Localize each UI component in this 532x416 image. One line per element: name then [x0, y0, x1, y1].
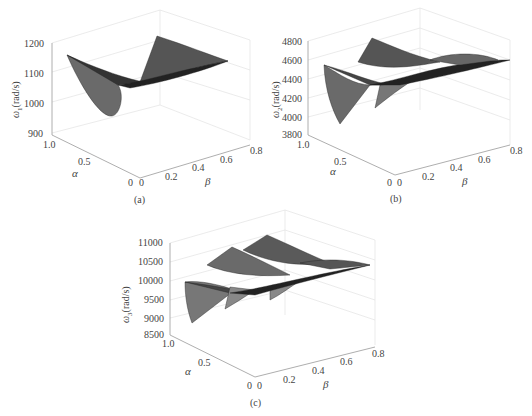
alpha-tick: 1.0 [162, 339, 175, 349]
beta-tick: 0.8 [372, 349, 385, 359]
beta-tick: 0.4 [450, 163, 463, 173]
ztick: 8500 [144, 330, 164, 340]
ztick: 4600 [282, 56, 302, 66]
z-subscript: 1 [16, 107, 24, 111]
beta-tick: 0.2 [422, 172, 435, 182]
z-unit: (rad/s) [10, 81, 21, 107]
beta-tick: 0.8 [510, 146, 523, 156]
ztick: 900 [28, 129, 43, 139]
caption-b: (b) [390, 193, 402, 204]
alpha-label: α [330, 165, 336, 177]
beta-label: β [462, 175, 467, 187]
ztick: 11000 [138, 238, 163, 248]
beta-tick: 0.6 [340, 357, 353, 367]
beta-tick: 0 [257, 381, 262, 391]
z-axis-label: ω1(rad/s) [10, 81, 24, 118]
ztick: 4800 [282, 37, 302, 47]
ztick: 10500 [138, 257, 163, 267]
beta-tick: 0.6 [478, 155, 491, 165]
surface-b [324, 38, 510, 124]
alpha-tick: 0 [387, 178, 392, 188]
caption-c: (c) [250, 397, 261, 408]
plot-b: 4800 4600 4400 4200 4000 3800 ω2(rad/s) … [270, 0, 532, 210]
ztick: 4000 [282, 113, 302, 123]
z-unit: (rad/s) [270, 81, 281, 107]
ztick: 4400 [282, 75, 302, 85]
plot-a: 1200 1100 1000 900 ω1(rad/s) 1.0 0.5 0 α… [0, 0, 270, 210]
beta-tick: 0 [139, 178, 144, 188]
beta-tick: 0.2 [283, 375, 296, 385]
ztick: 9000 [144, 314, 164, 324]
surface-c [185, 235, 370, 323]
alpha-tick: 0 [128, 178, 133, 188]
ztick: 1100 [24, 69, 44, 79]
plot-c-axes [130, 205, 410, 416]
beta-label: β [323, 378, 328, 390]
z-symbol: ω [270, 111, 281, 118]
z-symbol: ω [120, 316, 131, 323]
ztick: 10000 [138, 276, 163, 286]
ztick: 9500 [144, 295, 164, 305]
z-symbol: ω [10, 111, 21, 118]
alpha-tick: 1.0 [297, 140, 310, 150]
alpha-tick: 0.5 [198, 358, 211, 368]
alpha-label: α [185, 365, 191, 377]
beta-tick: 0.8 [250, 146, 263, 156]
z-subscript: 3 [126, 312, 134, 316]
z-unit: (rad/s) [120, 286, 131, 312]
z-subscript: 2 [276, 107, 284, 111]
ztick: 4200 [282, 94, 302, 104]
z-axis-label: ω3(rad/s) [120, 286, 134, 323]
ztick: 1000 [24, 99, 44, 109]
beta-tick: 0.4 [192, 163, 205, 173]
beta-tick: 0.6 [220, 155, 233, 165]
beta-label: β [205, 175, 210, 187]
beta-tick: 0.4 [312, 366, 325, 376]
surface-a [67, 36, 228, 116]
beta-tick: 0 [397, 178, 402, 188]
beta-tick: 0.2 [165, 172, 178, 182]
ztick: 1200 [24, 39, 44, 49]
z-axis-label: ω2(rad/s) [270, 81, 284, 118]
alpha-tick: 0 [247, 381, 252, 391]
alpha-tick: 0.5 [78, 157, 91, 167]
alpha-tick: 1.0 [43, 140, 56, 150]
caption-a: (a) [134, 194, 145, 205]
alpha-label: α [72, 167, 78, 179]
plot-c: 11000 10500 10000 9500 9000 8500 ω3(rad/… [130, 205, 410, 416]
